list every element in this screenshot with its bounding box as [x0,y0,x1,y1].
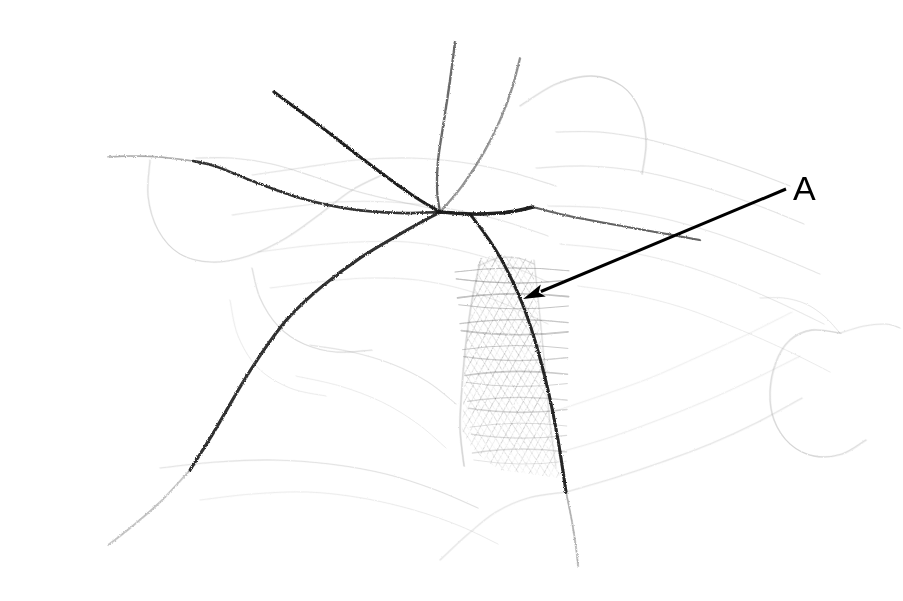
annotation-layer: A [0,0,903,601]
leader-arrow [523,189,786,299]
annotation-label-a: A [793,169,816,207]
leader-line [541,189,786,292]
figure-root: A [0,0,903,601]
